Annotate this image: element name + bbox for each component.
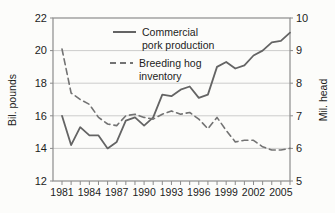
svg-text:1981: 1981 <box>50 186 74 198</box>
svg-text:22: 22 <box>35 12 47 24</box>
svg-text:9: 9 <box>296 44 302 56</box>
svg-text:1984: 1984 <box>78 186 102 198</box>
legend-label-pork-production: Commercial pork production <box>142 26 214 52</box>
svg-text:6: 6 <box>296 142 302 154</box>
x-axis-ticks <box>62 181 290 185</box>
pork-production-chart: 1981198419871990199319961999200220051214… <box>0 0 335 213</box>
legend-item-breeding-hog: Breeding hog inventory <box>110 57 201 83</box>
legend-label-breeding-hog: Breeding hog inventory <box>139 57 201 83</box>
left-axis-title: Bil. pounds <box>6 74 18 126</box>
solid-line-sample-icon <box>113 31 136 33</box>
svg-text:10: 10 <box>296 12 308 24</box>
svg-text:18: 18 <box>35 77 47 89</box>
legend-hog-line1: Breeding hog <box>139 57 201 69</box>
svg-text:1993: 1993 <box>160 186 184 198</box>
svg-text:1987: 1987 <box>105 186 129 198</box>
svg-text:8: 8 <box>296 77 302 89</box>
right-axis-title: Mil. head <box>317 79 329 122</box>
legend-hog-line2: inventory <box>139 70 182 82</box>
svg-text:1990: 1990 <box>132 186 156 198</box>
svg-text:1996: 1996 <box>187 186 211 198</box>
svg-text:7: 7 <box>296 110 302 122</box>
legend-pork-line1: Commercial <box>142 26 198 38</box>
right-axis-labels: 5678910 <box>290 12 308 187</box>
svg-text:1999: 1999 <box>214 186 238 198</box>
svg-text:5: 5 <box>296 175 302 187</box>
svg-text:16: 16 <box>35 110 47 122</box>
legend-item-pork-production: Commercial pork production <box>113 26 214 52</box>
svg-text:14: 14 <box>35 142 47 154</box>
legend-pork-line2: pork production <box>142 39 214 51</box>
dashed-line-sample-icon <box>110 62 133 64</box>
svg-text:2002: 2002 <box>242 186 266 198</box>
svg-text:20: 20 <box>35 44 47 56</box>
svg-text:12: 12 <box>35 175 47 187</box>
left-axis-labels: 121416182022 <box>35 12 53 187</box>
svg-text:2005: 2005 <box>269 186 293 198</box>
x-axis-labels: 198119841987199019931996199920022005 <box>50 186 292 198</box>
